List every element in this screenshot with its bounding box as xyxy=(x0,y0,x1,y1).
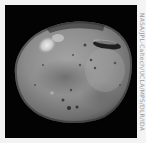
asteroid-image xyxy=(5,5,137,138)
image-credit: NASA/JPL-Caltech/UCLA/MPS/DLR/IDA xyxy=(137,0,146,143)
image-frame xyxy=(5,5,137,138)
asteroid-body xyxy=(15,20,132,123)
credit-text: NASA/JPL-Caltech/UCLA/MPS/DLR/IDA xyxy=(138,12,145,130)
